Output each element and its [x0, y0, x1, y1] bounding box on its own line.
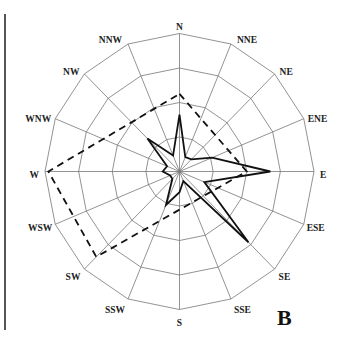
label-ene: ENE [308, 114, 328, 124]
label-se: SE [279, 272, 291, 282]
label-ese: ESE [307, 223, 325, 233]
label-nnw: NNW [99, 35, 123, 45]
label-wnw: WNW [25, 114, 51, 124]
label-sw: SW [66, 272, 81, 282]
label-w: W [30, 170, 40, 180]
label-wsw: WSW [28, 223, 53, 233]
series-solid [147, 115, 270, 243]
label-ne: NE [280, 67, 293, 77]
label-sse: SSE [234, 305, 251, 315]
label-e: E [320, 170, 326, 180]
polar-grid [45, 34, 314, 310]
series-dashed [48, 94, 246, 257]
data-series [48, 94, 270, 257]
panel-label: B [277, 305, 292, 330]
wind-rose-chart: NNNENEENEEESESESSESSSWSWWSWWWNWNWNNW B [0, 0, 344, 339]
label-nw: NW [63, 67, 80, 77]
label-nne: NNE [237, 35, 257, 45]
label-s: S [177, 318, 182, 328]
label-ssw: SSW [105, 305, 126, 315]
label-n: N [176, 22, 183, 32]
